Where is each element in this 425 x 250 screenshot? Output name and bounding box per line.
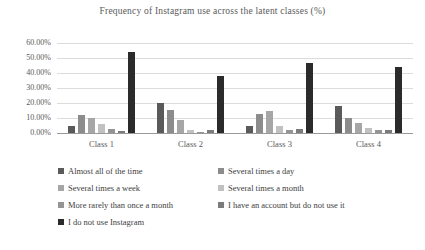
legend-label: Several times a week: [68, 183, 140, 193]
legend-label: Several times a day: [228, 166, 294, 176]
y-tick-label-40: 40.00%: [0, 69, 51, 77]
legend-item-i-do-not-use-instagram: I do not use Instagram: [58, 217, 218, 227]
bar-class-4-almost-all-of-the-time: [335, 106, 342, 133]
x-label-class-2: Class 2: [146, 139, 235, 149]
bar-class-2-i-do-not-use-instagram: [217, 76, 224, 133]
bar-class-3-several-times-a-day: [256, 114, 263, 134]
bar-class-2-several-times-a-day: [167, 110, 174, 133]
legend-swatch-icon: [218, 202, 224, 208]
legend-item-several-times-a-day: Several times a day: [218, 166, 408, 176]
y-tick-label-10: 10.00%: [0, 114, 51, 122]
y-tick-label-50: 50.00%: [0, 54, 51, 62]
bar-group-class-1: [57, 43, 146, 133]
bar-class-1-i-do-not-use-instagram: [128, 52, 135, 133]
bar-class-4-i-have-an-account-but-do-not-use-it: [385, 130, 392, 133]
bar-class-1-several-times-a-day: [78, 115, 85, 133]
bar-class-2-several-times-a-week: [177, 120, 184, 134]
bar-groups: [57, 43, 413, 133]
bar-class-2-more-rarely-than-once-a-month: [197, 132, 204, 134]
bar-class-4-several-times-a-week: [355, 123, 362, 134]
legend-label: More rarely than once a month: [68, 200, 173, 210]
bar-class-3-i-do-not-use-instagram: [306, 63, 313, 134]
bar-class-1-several-times-a-week: [88, 118, 95, 133]
bar-class-4-i-do-not-use-instagram: [395, 67, 402, 133]
bar-class-2-almost-all-of-the-time: [157, 103, 164, 133]
legend-swatch-icon: [58, 219, 64, 225]
plot-area: [57, 43, 413, 134]
y-tick-label-20: 20.00%: [0, 99, 51, 107]
chart-legend: Almost all of the timeSeveral times a da…: [58, 166, 408, 227]
chart-title: Frequency of Instagram use across the la…: [0, 6, 425, 16]
legend-item-i-have-an-account-but-do-not-use-it: I have an account but do not use it: [218, 200, 408, 210]
instagram-use-bar-chart: Frequency of Instagram use across the la…: [0, 0, 425, 250]
bar-class-1-i-have-an-account-but-do-not-use-it: [118, 131, 125, 133]
bar-class-2-several-times-a-month: [187, 130, 194, 133]
legend-item-several-times-a-month: Several times a month: [218, 183, 408, 193]
bar-class-4-several-times-a-day: [345, 118, 352, 133]
bar-class-1-almost-all-of-the-time: [68, 126, 75, 134]
bar-class-3-several-times-a-month: [276, 126, 283, 133]
bar-class-2-i-have-an-account-but-do-not-use-it: [207, 130, 214, 133]
bar-group-class-4: [324, 43, 413, 133]
legend-item-almost-all-of-the-time: Almost all of the time: [58, 166, 218, 176]
legend-label: Almost all of the time: [68, 166, 143, 176]
bar-class-3-i-have-an-account-but-do-not-use-it: [296, 129, 303, 134]
x-label-class-1: Class 1: [57, 139, 146, 149]
bar-class-1-more-rarely-than-once-a-month: [108, 129, 115, 133]
bar-class-4-several-times-a-month: [365, 128, 372, 133]
legend-label: I do not use Instagram: [68, 217, 144, 227]
bar-class-4-more-rarely-than-once-a-month: [375, 130, 382, 133]
legend-swatch-icon: [58, 185, 64, 191]
legend-label: Several times a month: [228, 183, 304, 193]
x-label-class-3: Class 3: [235, 139, 324, 149]
x-axis-category-labels: Class 1Class 2Class 3Class 4: [57, 139, 413, 149]
y-tick-label-0: 0.00%: [0, 129, 51, 137]
y-tick-label-60: 60.00%: [0, 39, 51, 47]
legend-item-several-times-a-week: Several times a week: [58, 183, 218, 193]
bar-class-3-more-rarely-than-once-a-month: [286, 130, 293, 133]
legend-swatch-icon: [58, 168, 64, 174]
bar-group-class-2: [146, 43, 235, 133]
legend-swatch-icon: [58, 202, 64, 208]
legend-swatch-icon: [218, 168, 224, 174]
bar-class-3-almost-all-of-the-time: [246, 126, 253, 134]
bar-class-3-several-times-a-week: [266, 111, 273, 134]
bar-group-class-3: [235, 43, 324, 133]
bar-class-1-several-times-a-month: [98, 124, 105, 133]
x-label-class-4: Class 4: [324, 139, 413, 149]
legend-item-more-rarely-than-once-a-month: More rarely than once a month: [58, 200, 218, 210]
legend-swatch-icon: [218, 185, 224, 191]
legend-label: I have an account but do not use it: [228, 200, 345, 210]
y-tick-label-30: 30.00%: [0, 84, 51, 92]
